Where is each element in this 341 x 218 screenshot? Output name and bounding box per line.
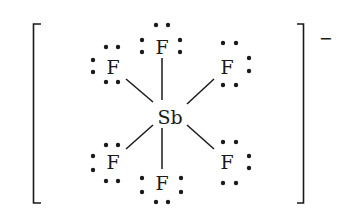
atom-f-bottom: F bbox=[155, 172, 168, 194]
atom-f-lower-right: F bbox=[220, 151, 233, 173]
left-bracket bbox=[34, 24, 42, 203]
atom-f-top: F bbox=[155, 36, 168, 58]
charge-label: − bbox=[319, 29, 332, 48]
bond-lower-left bbox=[126, 125, 153, 149]
bond-upper-right bbox=[187, 79, 214, 104]
bond-lower-right bbox=[187, 125, 214, 149]
atom-sb: Sb bbox=[157, 106, 182, 128]
atom-f-upper-right: F bbox=[220, 56, 233, 78]
bond-upper-left bbox=[126, 79, 153, 102]
atom-f-lower-left: F bbox=[106, 151, 119, 173]
right-bracket bbox=[297, 24, 304, 203]
lewis-structure-diagram: − Sb F F F F F F bbox=[0, 0, 341, 218]
atom-f-upper-left: F bbox=[106, 56, 119, 78]
